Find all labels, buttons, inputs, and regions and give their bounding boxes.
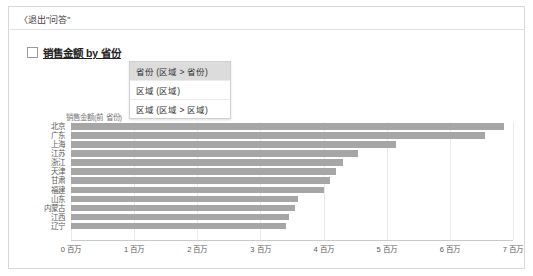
bar-row[interactable]: [71, 167, 513, 176]
category-label: 山东: [9, 195, 69, 204]
field-dropdown-menu[interactable]: 省份 (区域 > 省份) 区域 (区域) 区域 (区域 > 区域): [129, 61, 231, 119]
bar-row[interactable]: [71, 140, 513, 149]
category-label: 北京: [9, 122, 69, 131]
bar-row[interactable]: [71, 195, 513, 204]
category-label: 江苏: [9, 149, 69, 158]
bar[interactable]: [71, 187, 324, 194]
menu-item-region-region[interactable]: 区域 (区域 > 区域): [130, 100, 230, 118]
plot-area: [71, 122, 513, 240]
bar[interactable]: [71, 159, 343, 166]
bar[interactable]: [71, 214, 289, 221]
checkbox-icon[interactable]: [27, 47, 38, 58]
bar[interactable]: [71, 196, 298, 203]
bar[interactable]: [71, 150, 358, 157]
category-label: 江西: [9, 213, 69, 222]
category-label: 上海: [9, 140, 69, 149]
chart-title-row: 销售金额 by 省份: [27, 45, 121, 60]
bar-row[interactable]: [71, 222, 513, 231]
x-tick-label: 0 百万: [61, 243, 81, 254]
x-tick-label: 3 百万: [250, 243, 270, 254]
menu-item-province[interactable]: 省份 (区域 > 省份): [130, 62, 230, 81]
gridline: [513, 122, 514, 240]
x-tick-label: 7 百万: [503, 243, 523, 254]
page-title[interactable]: 销售金额 by 省份: [43, 45, 121, 60]
bar-row[interactable]: [71, 131, 513, 140]
bar[interactable]: [71, 223, 286, 230]
x-tick-label: 5 百万: [377, 243, 397, 254]
category-label: 内蒙古: [9, 204, 69, 213]
x-tick-label: 2 百万: [187, 243, 207, 254]
bar[interactable]: [71, 177, 330, 184]
x-axis-line: [71, 240, 513, 241]
bar-series: [71, 122, 513, 240]
bar[interactable]: [71, 205, 295, 212]
qa-card: 〈退出"问答" 销售金额 by 省份 省份 (区域 > 省份) 区域 (区域) …: [8, 6, 525, 269]
bar[interactable]: [71, 123, 504, 130]
bar-row[interactable]: [71, 149, 513, 158]
screen: 〈退出"问答" 销售金额 by 省份 省份 (区域 > 省份) 区域 (区域) …: [0, 0, 533, 276]
category-label: 辽宁: [9, 222, 69, 231]
bar-row[interactable]: [71, 122, 513, 131]
bar[interactable]: [71, 141, 396, 148]
x-tick-label: 6 百万: [440, 243, 460, 254]
x-tick-label: 4 百万: [313, 243, 333, 254]
x-axis-ticks: 0 百万1 百万2 百万3 百万4 百万5 百万6 百万7 百万: [9, 243, 533, 255]
bar-row[interactable]: [71, 213, 513, 222]
category-label: 广东: [9, 131, 69, 140]
bar[interactable]: [71, 132, 485, 139]
category-axis-labels: 北京广东上海江苏浙江天津甘肃福建山东内蒙古江西辽宁: [9, 122, 69, 240]
header-divider: [10, 29, 525, 30]
bar-row[interactable]: [71, 158, 513, 167]
x-tick-label: 1 百万: [124, 243, 144, 254]
category-label: 福建: [9, 186, 69, 195]
exit-qa-link[interactable]: 〈退出"问答": [19, 13, 70, 26]
value-axis-title: 销售金额(前 省份): [66, 111, 122, 122]
category-label: 甘肃: [9, 176, 69, 185]
bar-row[interactable]: [71, 186, 513, 195]
bar-row[interactable]: [71, 204, 513, 213]
category-label: 浙江: [9, 158, 69, 167]
bar-row[interactable]: [71, 176, 513, 185]
bar[interactable]: [71, 168, 336, 175]
menu-item-region[interactable]: 区域 (区域): [130, 81, 230, 100]
